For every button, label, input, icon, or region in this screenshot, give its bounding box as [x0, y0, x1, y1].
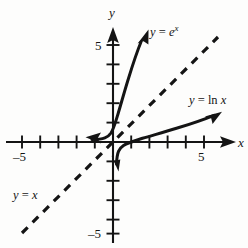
- line-label-equals: =: [22, 188, 29, 202]
- exp-label-exponent: x: [174, 23, 178, 33]
- ln-label-fn: ln: [208, 93, 218, 107]
- ln-label-equals: =: [198, 93, 205, 107]
- graph-figure: x y –5 5 5 –5 y = ex y = ln x y = x: [0, 0, 248, 248]
- x-axis-label: x: [238, 136, 244, 149]
- x-tick-label-minus-5: –5: [13, 150, 26, 163]
- identity-line-label: y = x: [13, 189, 37, 202]
- y-tick-label-5: 5: [95, 39, 102, 52]
- series-identity-line: [22, 37, 218, 233]
- y-tick-label-minus-5: –5: [88, 227, 101, 240]
- exponential-curve-label: y = ex: [150, 24, 178, 39]
- logarithm-curve-label: y = ln x: [189, 94, 226, 107]
- exp-label-equals: =: [159, 25, 166, 39]
- line-label-arg: x: [32, 188, 38, 202]
- x-tick-label-5: 5: [198, 150, 205, 163]
- y-axis-label: y: [109, 6, 115, 19]
- ln-label-arg: x: [221, 93, 227, 107]
- coordinate-plane: [0, 0, 248, 248]
- exponential-up-arrowhead: [138, 30, 149, 45]
